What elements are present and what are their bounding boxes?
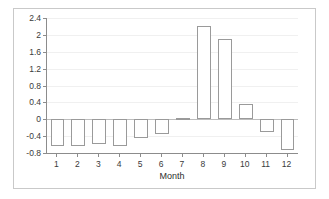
y-tick-mark bbox=[43, 52, 47, 53]
y-gridline bbox=[47, 69, 298, 70]
x-tick-mark bbox=[245, 153, 246, 157]
x-tick-mark bbox=[119, 153, 120, 157]
y-tick-mark bbox=[43, 86, 47, 87]
x-axis-line: 123456789101112 bbox=[46, 153, 298, 154]
y-tick-label: 0.4 bbox=[29, 98, 41, 107]
x-tick-mark bbox=[182, 153, 183, 157]
x-tick-label: 11 bbox=[261, 160, 270, 169]
x-tick-mark bbox=[266, 153, 267, 157]
bar bbox=[71, 119, 85, 146]
bar bbox=[155, 119, 169, 134]
y-tick-label: 1.6 bbox=[29, 48, 41, 57]
y-tick-label: -0.8 bbox=[26, 149, 41, 158]
x-tick-label: 5 bbox=[138, 160, 143, 169]
x-tick-label: 4 bbox=[117, 160, 122, 169]
x-tick-label: 7 bbox=[180, 160, 185, 169]
y-tick-mark bbox=[43, 102, 47, 103]
x-tick-mark bbox=[98, 153, 99, 157]
y-gridline bbox=[47, 35, 298, 36]
y-tick-mark bbox=[43, 69, 47, 70]
x-tick-mark bbox=[77, 153, 78, 157]
bar-chart-figure: 2.421.61.20.80.40-0.4-0.8 12345678910111… bbox=[0, 0, 329, 199]
x-tick-label: 3 bbox=[96, 160, 101, 169]
y-tick-label: 0 bbox=[36, 115, 41, 124]
bar bbox=[134, 119, 148, 138]
bar bbox=[113, 119, 127, 146]
y-tick-label: 2 bbox=[36, 31, 41, 40]
y-tick-label: 1.2 bbox=[29, 64, 41, 73]
y-tick-mark bbox=[43, 136, 47, 137]
bar bbox=[239, 104, 253, 119]
y-gridline bbox=[47, 102, 298, 103]
bar bbox=[176, 118, 190, 120]
y-tick-mark bbox=[43, 18, 47, 19]
bar bbox=[260, 119, 274, 132]
bar bbox=[92, 119, 106, 144]
x-tick-mark bbox=[224, 153, 225, 157]
y-gridline bbox=[47, 52, 298, 53]
y-tick-mark bbox=[43, 119, 47, 120]
x-tick-label: 2 bbox=[75, 160, 80, 169]
y-gridline bbox=[47, 18, 298, 19]
x-tick-label: 9 bbox=[221, 160, 226, 169]
x-tick-label: 12 bbox=[282, 160, 291, 169]
y-tick-label: 0.8 bbox=[29, 81, 41, 90]
bar bbox=[51, 119, 65, 146]
x-tick-label: 8 bbox=[201, 160, 206, 169]
y-tick-mark bbox=[43, 35, 47, 36]
x-tick-label: 10 bbox=[240, 160, 249, 169]
y-gridline bbox=[47, 86, 298, 87]
x-tick-mark bbox=[203, 153, 204, 157]
y-tick-label: 2.4 bbox=[29, 14, 41, 23]
bar bbox=[281, 119, 295, 149]
bar bbox=[218, 39, 232, 119]
x-tick-label: 6 bbox=[159, 160, 164, 169]
x-tick-label: 1 bbox=[54, 160, 59, 169]
y-tick-label: -0.4 bbox=[26, 132, 41, 141]
x-tick-mark bbox=[287, 153, 288, 157]
x-tick-mark bbox=[140, 153, 141, 157]
x-tick-mark bbox=[161, 153, 162, 157]
x-tick-mark bbox=[56, 153, 57, 157]
x-axis-title: Month bbox=[46, 172, 298, 181]
plot-area: 2.421.61.20.80.40-0.4-0.8 bbox=[46, 18, 298, 153]
bar bbox=[197, 26, 211, 119]
